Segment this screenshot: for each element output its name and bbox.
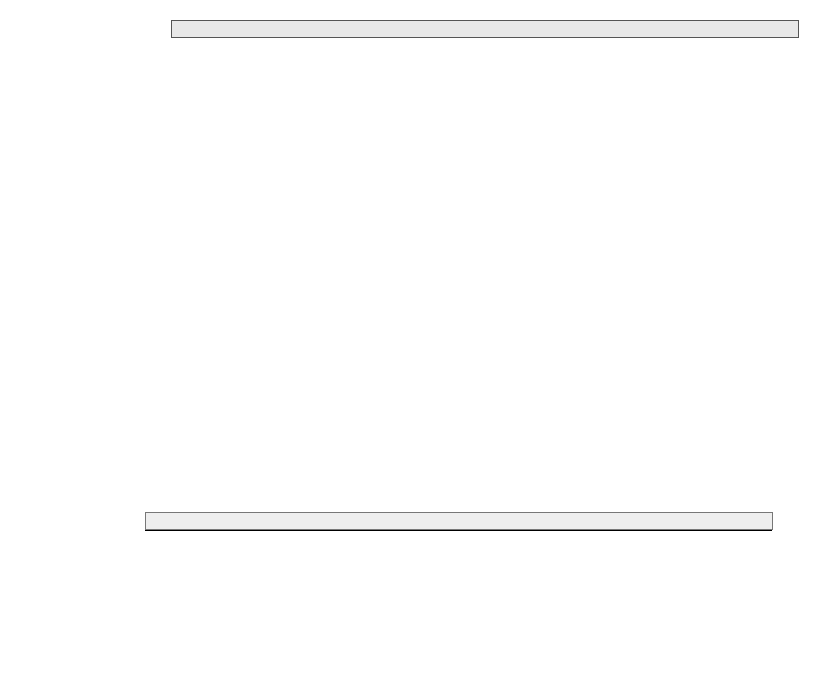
y-axis-labels — [0, 0, 140, 530]
x-axis-line — [145, 530, 772, 531]
chart-legend — [0, 585, 820, 665]
chart-figure — [0, 0, 820, 676]
plot-area — [145, 20, 772, 530]
plot-box-floor — [145, 512, 773, 530]
